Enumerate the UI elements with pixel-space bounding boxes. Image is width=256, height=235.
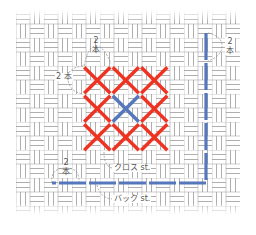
cross-stitch-grid xyxy=(84,67,167,150)
cross-top-count-label: 2 本 xyxy=(91,36,101,54)
unit-text: 本 xyxy=(225,46,235,55)
count-text: 2 xyxy=(225,37,235,46)
unit-text: 本 xyxy=(61,167,71,176)
unit-text: 本 xyxy=(91,45,101,54)
back-right-count-label: 2 本 xyxy=(225,37,235,55)
cross-stitch-label: クロス st. xyxy=(113,164,151,172)
count-text: 2 xyxy=(61,158,71,167)
back-left-count-label: 2 本 xyxy=(61,158,71,176)
back-stitch-label: バック st. xyxy=(113,195,151,203)
cross-left-count-label: 2 本 xyxy=(55,73,73,81)
count-text: 2 xyxy=(91,36,101,45)
stitch-diagram: 2 本 2 本 2 本 2 本 クロス st. バック st. xyxy=(0,0,256,235)
